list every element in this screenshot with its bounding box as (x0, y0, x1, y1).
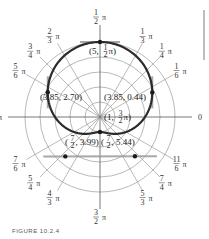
svg-text:3: 3 (48, 198, 52, 207)
angle-label: 76π (12, 155, 25, 173)
svg-text:0: 0 (198, 113, 202, 122)
svg-text:π): π) (109, 46, 117, 56)
svg-text:3: 3 (94, 208, 98, 217)
svg-text:π: π (21, 160, 25, 169)
angle-label: 13π (140, 27, 153, 45)
svg-text:3: 3 (141, 36, 145, 45)
point-label: (3.85, 2.70) (40, 92, 82, 102)
svg-text:3: 3 (48, 36, 52, 45)
svg-text:5: 5 (28, 174, 32, 183)
marked-point (133, 154, 137, 158)
angle-label: 14π (159, 42, 172, 60)
svg-text:4: 4 (160, 183, 164, 192)
svg-text:π: π (21, 67, 25, 76)
angle-ray (58, 117, 101, 191)
svg-text:3: 3 (28, 42, 32, 51)
marked-point (63, 154, 67, 158)
svg-text:6: 6 (175, 71, 179, 80)
svg-text:π: π (102, 13, 106, 22)
svg-text:5: 5 (13, 62, 17, 71)
svg-text:(1,: (1, (104, 112, 114, 122)
angle-label: 56π (12, 62, 25, 80)
svg-text:2: 2 (94, 17, 98, 26)
figure-caption: FIGURE 10.2.4 (12, 228, 60, 234)
svg-text:π: π (148, 194, 152, 203)
svg-text:(: ( (65, 137, 68, 147)
point-label: (5,12π) (89, 43, 116, 59)
angle-label: 23π (47, 27, 60, 45)
svg-text:2: 2 (71, 141, 75, 150)
svg-text:4: 4 (160, 51, 164, 60)
svg-text:π: π (0, 113, 2, 122)
angle-label: 12π (93, 8, 106, 26)
svg-text:π): π) (124, 112, 132, 122)
svg-text:, 3.99): , 3.99) (76, 137, 99, 147)
svg-text:4: 4 (28, 183, 32, 192)
svg-text:1: 1 (175, 62, 179, 71)
svg-text:1: 1 (160, 42, 164, 51)
svg-text:1: 1 (94, 8, 98, 17)
svg-text:5: 5 (141, 189, 145, 198)
angle-label: 32π (93, 208, 106, 226)
svg-text:6: 6 (13, 71, 17, 80)
svg-text:2: 2 (48, 27, 52, 36)
svg-text:π: π (55, 194, 59, 203)
svg-text:6: 6 (175, 164, 179, 173)
svg-text:π: π (148, 32, 152, 41)
angle-label: 54π (27, 174, 40, 192)
svg-text:, 5.44): , 5.44) (112, 137, 135, 147)
svg-text:(: ( (101, 137, 104, 147)
svg-text:π: π (183, 160, 187, 169)
svg-text:π: π (168, 179, 172, 188)
point-label: (72, 3.99) (65, 134, 99, 150)
svg-text:2: 2 (94, 217, 98, 226)
svg-text:4: 4 (28, 51, 32, 60)
svg-text:π: π (183, 67, 187, 76)
svg-text:1: 1 (141, 27, 145, 36)
angle-label: 0 (198, 113, 202, 122)
angle-label: 16π (174, 62, 187, 80)
svg-text:2: 2 (107, 141, 111, 150)
angle-label: π (0, 113, 2, 122)
svg-text:π: π (36, 179, 40, 188)
angle-label: 74π (159, 174, 172, 192)
svg-text:2: 2 (119, 116, 123, 125)
svg-text:11: 11 (173, 155, 181, 164)
marked-point (98, 40, 102, 44)
polar-graph: 016π14π13π12π23π34π56ππ76π54π43π32π53π74… (0, 0, 209, 239)
svg-text:2: 2 (104, 50, 108, 59)
svg-text:π: π (168, 47, 172, 56)
point-label: (1,32π) (104, 109, 131, 125)
angle-ray (100, 117, 143, 191)
svg-text:7: 7 (13, 155, 17, 164)
marked-point (150, 90, 154, 94)
svg-text:π: π (102, 213, 106, 222)
angle-label: 43π (47, 189, 60, 207)
svg-text:4: 4 (48, 189, 52, 198)
svg-text:π: π (36, 47, 40, 56)
svg-text:6: 6 (13, 164, 17, 173)
svg-text:(5,: (5, (89, 46, 99, 56)
svg-text:7: 7 (160, 174, 164, 183)
point-label: (3.85, 0.44) (104, 92, 146, 102)
marked-point (98, 130, 102, 134)
svg-text:3: 3 (141, 198, 145, 207)
angle-label: 53π (140, 189, 153, 207)
angle-label: 34π (27, 42, 40, 60)
angle-label: 116π (173, 155, 187, 173)
svg-text:π: π (55, 32, 59, 41)
